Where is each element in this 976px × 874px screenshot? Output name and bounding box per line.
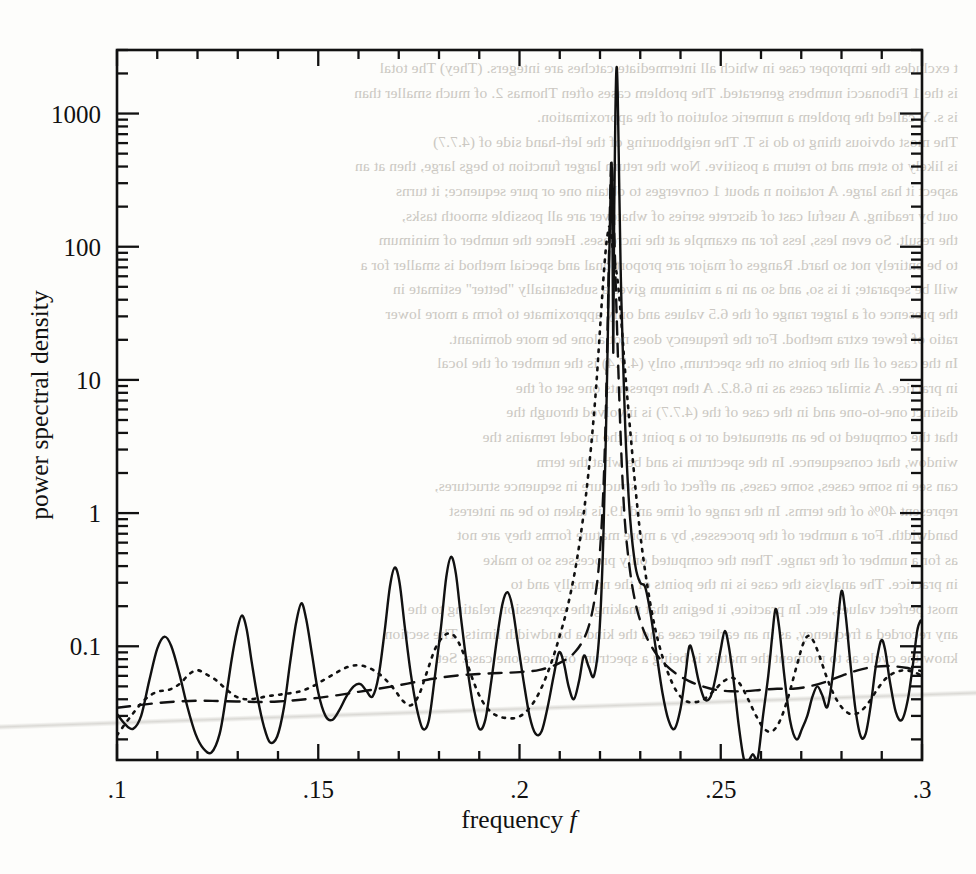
y-axis-minor-ticks bbox=[117, 50, 922, 739]
power-spectral-density-chart: .1.15.2.25.3 0.11101001000 frequency f p… bbox=[0, 0, 976, 874]
x-tick-label: .3 bbox=[913, 776, 932, 803]
chart-svg: .1.15.2.25.3 0.11101001000 frequency f p… bbox=[0, 0, 976, 874]
y-tick-label: 10 bbox=[76, 367, 101, 394]
x-axis-tick-labels: .1.15.2.25.3 bbox=[108, 776, 932, 803]
x-tick-label: .1 bbox=[108, 776, 127, 803]
y-tick-label: 100 bbox=[64, 234, 102, 261]
data-series-group bbox=[117, 67, 922, 763]
x-tick-label: .2 bbox=[510, 776, 529, 803]
x-tick-label: .15 bbox=[303, 776, 334, 803]
y-axis-title: power spectral density bbox=[25, 290, 54, 520]
y-tick-label: 0.1 bbox=[70, 633, 101, 660]
series-solid bbox=[117, 67, 922, 763]
x-tick-label: .25 bbox=[705, 776, 736, 803]
x-axis-title: frequency f bbox=[461, 805, 580, 834]
y-tick-label: 1000 bbox=[51, 101, 101, 128]
scanned-page: t excludes the improper case in which al… bbox=[0, 0, 976, 874]
y-tick-label: 1 bbox=[89, 500, 102, 527]
y-axis-tick-labels: 0.11101001000 bbox=[51, 101, 101, 661]
